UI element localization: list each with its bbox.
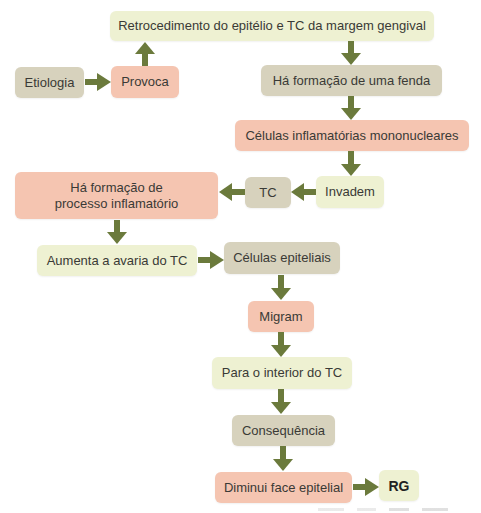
- node-provoca: Provoca: [111, 66, 179, 98]
- node-fenda: Há formação de uma fenda: [261, 65, 442, 96]
- arrow-down-icon: [341, 41, 361, 65]
- node-interior-tc: Para o interior do TC: [212, 357, 352, 389]
- node-etiologia: Etiologia: [15, 67, 84, 98]
- node-celulas-inflamatorias: Células inflamatórias mononucleares: [235, 120, 469, 151]
- node-processo-inflamatorio: Há formação de processo inflamatório: [15, 172, 218, 219]
- arrow-down-icon: [271, 332, 291, 357]
- arrow-down-icon: [271, 275, 291, 300]
- arrow-down-icon: [341, 96, 361, 120]
- arrow-left-icon: [219, 183, 245, 201]
- arrow-up-icon: [135, 42, 155, 66]
- node-tc: TC: [245, 177, 291, 208]
- node-migram: Migram: [248, 301, 314, 332]
- arrow-right-icon: [353, 478, 379, 496]
- arrow-down-icon: [273, 446, 293, 471]
- arrow-right-icon: [198, 251, 224, 269]
- node-rg: RG: [379, 470, 419, 501]
- node-consequencia: Consequência: [232, 415, 335, 446]
- node-celulas-epiteliais: Células epiteliais: [224, 242, 340, 274]
- node-retrocedimento: Retrocedimento do epitélio e TC da marge…: [110, 11, 434, 41]
- arrow-down-icon: [107, 220, 127, 244]
- arrow-left-icon: [291, 183, 316, 201]
- cropped-caption: [318, 508, 448, 511]
- arrow-down-icon: [341, 151, 361, 176]
- node-invadem: Invadem: [316, 176, 384, 208]
- arrow-right-icon: [85, 73, 111, 91]
- node-aumenta-avaria: Aumenta a avaria do TC: [37, 245, 197, 276]
- arrow-down-icon: [271, 389, 291, 414]
- node-diminui-face: Diminui face epitelial: [215, 472, 352, 503]
